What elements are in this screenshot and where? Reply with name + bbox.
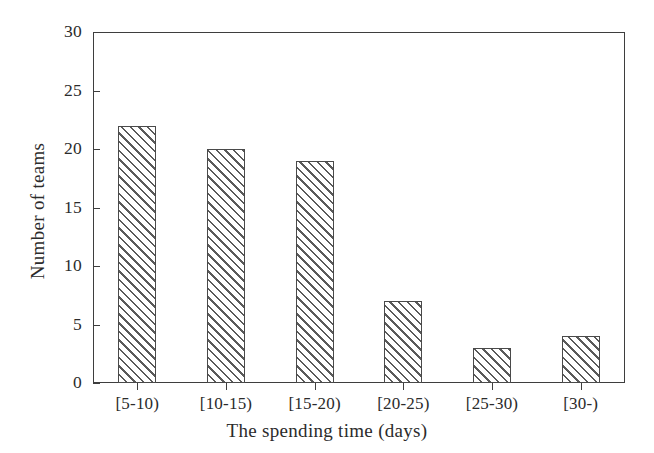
y-tick-mark-2 bbox=[93, 266, 100, 267]
bar-1[interactable] bbox=[207, 149, 245, 383]
x-tick-label-2: [15-20) bbox=[288, 394, 340, 414]
y-tick-mark-5 bbox=[93, 91, 100, 92]
y-tick-label-6: 30 bbox=[64, 23, 82, 41]
bar-0[interactable] bbox=[118, 126, 156, 383]
x-tick-label-3: [20-25) bbox=[377, 394, 429, 414]
y-tick-mark-4 bbox=[93, 149, 100, 150]
x-tick-mark-3 bbox=[403, 383, 404, 390]
x-tick-mark-5 bbox=[581, 383, 582, 390]
x-tick-mark-2 bbox=[315, 383, 316, 390]
y-tick-label-3: 15 bbox=[64, 199, 82, 217]
x-tick-mark-4 bbox=[492, 383, 493, 390]
x-tick-mark-1 bbox=[226, 383, 227, 390]
y-tick-label-5: 25 bbox=[64, 82, 82, 100]
y-tick-label-2: 10 bbox=[64, 257, 82, 275]
histogram-figure: 0 5 10 15 20 25 30 [5-10) [10-15) [15-20… bbox=[0, 0, 654, 453]
bar-5[interactable] bbox=[562, 336, 600, 383]
y-axis-tick-labels: 0 5 10 15 20 25 30 bbox=[52, 0, 82, 453]
y-tick-mark-1 bbox=[93, 325, 100, 326]
bar-3[interactable] bbox=[384, 301, 422, 383]
y-tick-mark-6 bbox=[93, 32, 100, 33]
y-axis-title: Number of teams bbox=[27, 111, 49, 311]
y-tick-label-0: 0 bbox=[73, 374, 82, 392]
x-tick-mark-0 bbox=[137, 383, 138, 390]
bar-2[interactable] bbox=[296, 161, 334, 383]
x-tick-label-1: [10-15) bbox=[200, 394, 252, 414]
bar-4[interactable] bbox=[473, 348, 511, 383]
x-tick-label-5: [30-) bbox=[563, 394, 598, 414]
y-tick-label-4: 20 bbox=[64, 140, 82, 158]
x-tick-label-0: [5-10) bbox=[115, 394, 159, 414]
x-axis-title: The spending time (days) bbox=[0, 420, 654, 442]
plot-frame bbox=[93, 32, 625, 383]
y-tick-mark-3 bbox=[93, 208, 100, 209]
y-tick-label-1: 5 bbox=[73, 316, 82, 334]
x-tick-label-4: [25-30) bbox=[466, 394, 518, 414]
y-tick-mark-0 bbox=[93, 383, 100, 384]
